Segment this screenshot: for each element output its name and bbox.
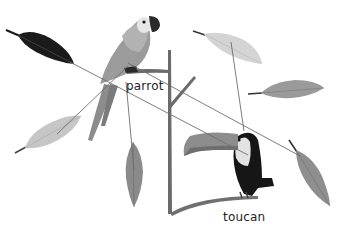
parrot-face xyxy=(137,17,151,33)
gray-feather-bottom-right xyxy=(289,140,330,206)
light-feather-top-right xyxy=(193,31,262,64)
black-feather xyxy=(6,30,74,64)
toucan-label: toucan xyxy=(223,210,265,224)
tree xyxy=(125,50,258,216)
leader-lines xyxy=(57,42,300,170)
tree-trunk xyxy=(168,50,172,214)
illustration xyxy=(0,0,344,229)
parrot-label: parrot xyxy=(126,79,164,93)
gray-feather-bottom-middle xyxy=(126,142,143,207)
parrot-eye xyxy=(142,20,145,23)
light-feather-lower-left xyxy=(15,116,81,153)
parrot-beak xyxy=(149,16,160,32)
line-black-feather-to-toucan xyxy=(70,62,248,155)
gray-feather-right-middle xyxy=(248,80,324,98)
side-branch xyxy=(170,76,196,108)
toucan xyxy=(184,132,274,198)
